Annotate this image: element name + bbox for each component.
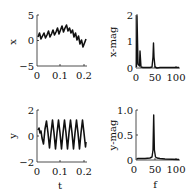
y-axis-label: y-mag [107,119,118,151]
ytick-label: 2 [127,10,133,21]
xtick-label: 0 [34,166,40,177]
xtick-label: 100 [166,164,185,175]
xtick-label: 50 [149,164,162,175]
ytick-label: 1.0 [117,105,133,116]
xtick-label: 0 [34,70,40,81]
plot-x-time: 5 0 −5 0 0.1 0.2 x [7,10,92,81]
figure: 5 0 −5 0 0.1 0.2 x 2 1 0 0 50 100 x-mag … [0,0,195,194]
xtick-label: 0.2 [76,166,92,177]
ytick-label: 5 [28,10,34,21]
plot-y-time: 2 0 −2 0 0.1 0.2 y t [7,105,92,191]
y-axis-label: x [7,39,18,45]
ytick-label: 2 [28,105,34,116]
xtick-label: 0 [133,72,139,83]
plot-y-magnitude: 1.0 0.5 0 0 50 100 y-mag f [107,105,186,190]
xtick-label: 0.1 [52,70,68,81]
y-axis-label: y [7,133,18,140]
xtick-label: 0.2 [76,70,92,81]
ytick-label: 1 [127,36,133,47]
ytick-label: 0.5 [117,130,133,141]
ytick-label: 0 [28,35,34,46]
x-axis-label: t [58,180,62,191]
x-axis-label: f [153,179,158,190]
y-axis-label: x-mag [107,26,118,57]
ytick-label: −2 [19,157,34,168]
xtick-label: 0.1 [52,166,68,177]
xtick-label: 0 [131,164,137,175]
ytick-label: 0 [28,131,34,142]
ytick-label: −5 [19,61,34,72]
xtick-label: 100 [166,72,185,83]
xtick-label: 50 [149,72,162,83]
plot-x-magnitude: 2 1 0 0 50 100 x-mag [107,10,186,83]
